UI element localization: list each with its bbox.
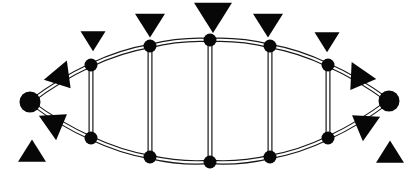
graph-node-bot-2[interactable] [144, 151, 157, 164]
marker-tri-top-1[interactable] [81, 31, 106, 51]
marker-tri-top-2[interactable] [135, 14, 165, 38]
graph-node-apex-left[interactable] [20, 92, 41, 113]
marker-tri-top-4[interactable] [253, 14, 283, 38]
graph-node-bot-4[interactable] [264, 151, 277, 164]
marker-tri-left-upper[interactable] [44, 60, 82, 97]
marker-tri-top-3[interactable] [194, 3, 232, 33]
graph-node-bot-1[interactable] [85, 132, 98, 145]
edge-layer-inner [30, 40, 389, 163]
graph-svg [0, 0, 419, 177]
graph-node-bot-3[interactable] [204, 156, 217, 169]
graph-node-bot-5[interactable] [322, 132, 335, 145]
graph-node-top-1[interactable] [85, 59, 98, 72]
diagram-canvas [0, 0, 419, 177]
graph-node-top-3[interactable] [204, 34, 217, 47]
marker-tri-top-5[interactable] [315, 32, 340, 52]
graph-node-top-5[interactable] [322, 59, 335, 72]
marker-tri-left-corner[interactable] [18, 140, 46, 162]
graph-node-top-2[interactable] [144, 40, 157, 53]
graph-node-top-4[interactable] [264, 40, 277, 53]
marker-tri-right-corner[interactable] [376, 141, 404, 163]
marker-tri-right-upper[interactable] [338, 62, 376, 99]
marker-tri-left-lower[interactable] [39, 102, 76, 140]
graph-node-apex-right[interactable] [379, 91, 400, 112]
